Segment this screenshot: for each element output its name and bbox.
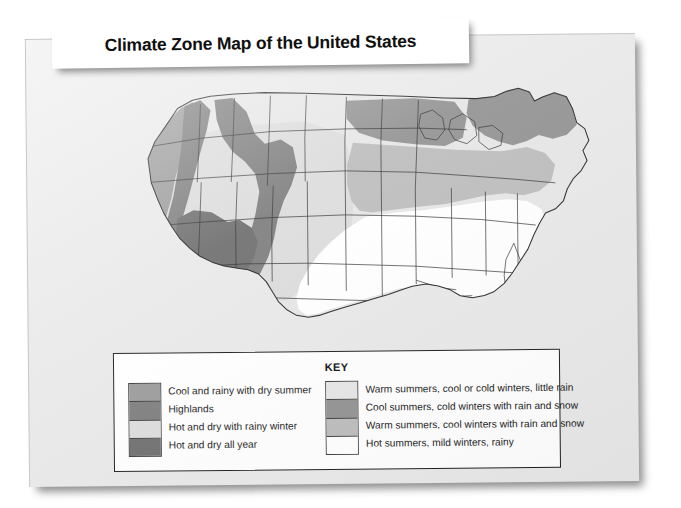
key-title: KEY: [114, 359, 559, 375]
climate-map: [114, 82, 616, 337]
legend-labels-left: Cool and rainy with dry summer Highlands…: [168, 381, 312, 454]
swatch-hot-dry-rainy-winter: [130, 420, 161, 439]
swatch-hot-dry-all-year: [130, 438, 161, 456]
legend-label: Hot summers, mild winters, rainy: [366, 433, 584, 453]
swatch-warm-summers-cool-winters: [327, 418, 358, 437]
swatch-hot-summers-mild-winters: [327, 437, 358, 455]
title-banner: Climate Zone Map of the United States: [52, 17, 470, 68]
swatch-cool-summers-cold-winters: [327, 400, 358, 419]
legend-labels-right: Warm summers, cool or cold winters, litt…: [365, 379, 584, 453]
map-zone-fills: [114, 82, 616, 337]
legend-label: Warm summers, cool winters with rain and…: [366, 415, 584, 435]
legend-column-right: Warm summers, cool or cold winters, litt…: [325, 379, 584, 455]
legend-swatch-stack-left: [128, 383, 162, 457]
legend-label: Highlands: [168, 399, 311, 418]
screenshot-root: KEY Cool and rainy with dry summer Highl…: [0, 0, 681, 508]
swatch-cool-rainy-dry-summer: [129, 384, 160, 403]
map-page-card: KEY Cool and rainy with dry summer Highl…: [25, 33, 639, 487]
legend-label: Cool summers, cold winters with rain and…: [366, 397, 584, 417]
us-climate-map-svg: [114, 82, 616, 337]
legend-column-left: Cool and rainy with dry summer Highlands…: [128, 381, 312, 457]
legend-label: Hot and dry all year: [169, 435, 312, 454]
legend-columns: Cool and rainy with dry summer Highlands…: [114, 379, 560, 457]
swatch-warm-summers-little-rain: [326, 382, 357, 401]
page-title: Climate Zone Map of the United States: [105, 30, 417, 55]
legend-swatch-stack-right: [325, 381, 359, 455]
swatch-highlands: [129, 402, 160, 421]
legend-label: Warm summers, cool or cold winters, litt…: [365, 379, 583, 399]
legend-label: Hot and dry with rainy winter: [169, 417, 312, 436]
map-key-legend: KEY Cool and rainy with dry summer Highl…: [113, 349, 561, 472]
legend-label: Cool and rainy with dry summer: [168, 381, 311, 400]
